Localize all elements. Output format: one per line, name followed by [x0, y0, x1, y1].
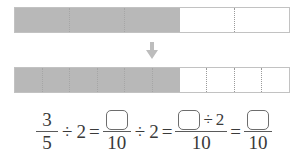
divisor-value: 2: [75, 122, 89, 141]
fraction-denominator: 5: [39, 132, 55, 153]
division-operator: ÷: [60, 122, 74, 141]
equals-sign: =: [88, 122, 101, 141]
division-operator: ÷: [133, 122, 147, 141]
equals-sign: =: [161, 122, 174, 141]
bar-model-fifths: [14, 7, 290, 33]
fraction-blank-over-ten-final: 10: [244, 110, 272, 153]
worksheet-canvas: 3 5 ÷ 2 = 10 ÷ 2 = ÷: [0, 0, 302, 165]
bar-cell-shaded: [15, 8, 70, 32]
bar-cell-empty: [235, 8, 289, 32]
fraction-numerator: [244, 110, 272, 131]
equals-sign: =: [229, 122, 242, 141]
fraction-three-fifths: 3 5: [36, 110, 58, 153]
fraction-blank-divided-by-two-over-ten: ÷ 2 10: [175, 110, 227, 153]
bar-model-tenths: [14, 67, 290, 93]
answer-box-numerator-3[interactable]: [247, 110, 269, 130]
fraction-blank-over-ten-first: 10: [103, 110, 131, 153]
bar-cell-empty: [235, 68, 263, 92]
fraction-denominator: 10: [189, 132, 214, 153]
numerator-division-operator: ÷: [201, 111, 212, 128]
bar-cell-empty: [180, 68, 208, 92]
fraction-numerator: [103, 110, 131, 131]
bar-cell-shaded: [125, 8, 179, 32]
fraction-numerator: 3: [39, 110, 55, 131]
divisor-value: 2: [147, 122, 161, 141]
bar-cell-shaded: [98, 68, 126, 92]
bar-cell-empty: [180, 8, 235, 32]
numerator-divisor-value: 2: [214, 111, 225, 128]
fraction-denominator: 10: [104, 132, 129, 153]
answer-box-numerator-2[interactable]: [178, 110, 200, 130]
arrow-down-icon: [145, 42, 159, 60]
fraction-denominator: 10: [245, 132, 270, 153]
bar-cell-empty: [262, 68, 289, 92]
bar-cell-shaded: [125, 68, 153, 92]
bar-cell-shaded: [43, 68, 71, 92]
bar-cell-shaded: [70, 8, 125, 32]
answer-box-numerator-1[interactable]: [106, 110, 128, 130]
equation-row: 3 5 ÷ 2 = 10 ÷ 2 = ÷: [14, 100, 294, 162]
bar-cell-shaded: [153, 68, 180, 92]
fraction-numerator: ÷ 2: [175, 110, 227, 131]
bar-cell-empty: [207, 68, 235, 92]
bar-cell-shaded: [70, 68, 98, 92]
bar-cell-shaded: [15, 68, 43, 92]
